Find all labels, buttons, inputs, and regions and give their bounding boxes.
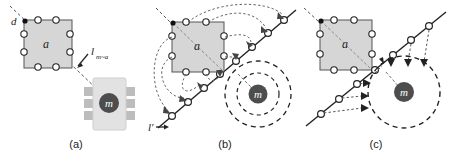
callout-arrow-line [78,54,88,66]
distance-label: l [91,45,94,57]
panel-a: d a l m~a m (a) [0,0,152,152]
figure-root: d a l m~a m (a) [0,0,456,152]
diagonal-label: a [194,39,200,53]
panel-c-caption: (c) [296,138,456,150]
panel-a-canvas: d a l m~a m [0,0,152,152]
panel-b: a [146,0,304,152]
panel-a-caption: (a) [0,138,152,150]
node-m-label: m [254,88,262,100]
panel-b-canvas: a [146,0,304,152]
line-label: l' [148,121,154,133]
node-m-label: m [105,97,113,109]
seed-node-icon [22,18,27,23]
panel-c: a [296,0,456,152]
chip-node-m: m [84,78,135,130]
diagonal-label: a [43,37,49,51]
node-m-label: m [400,86,408,98]
seed-node-icon [170,20,175,25]
seed-label: d [11,15,17,27]
line-label-arrow-head-icon [164,125,169,130]
diagonal-label: a [342,37,348,51]
panel-b-caption: (b) [146,138,304,150]
distance-label-subscript: m~a [96,53,109,61]
seed-node-icon [318,18,323,23]
convergence-arrowheads-upper [379,57,428,67]
panel-c-canvas: a [296,0,456,152]
convergence-arrows-upper [375,30,429,73]
